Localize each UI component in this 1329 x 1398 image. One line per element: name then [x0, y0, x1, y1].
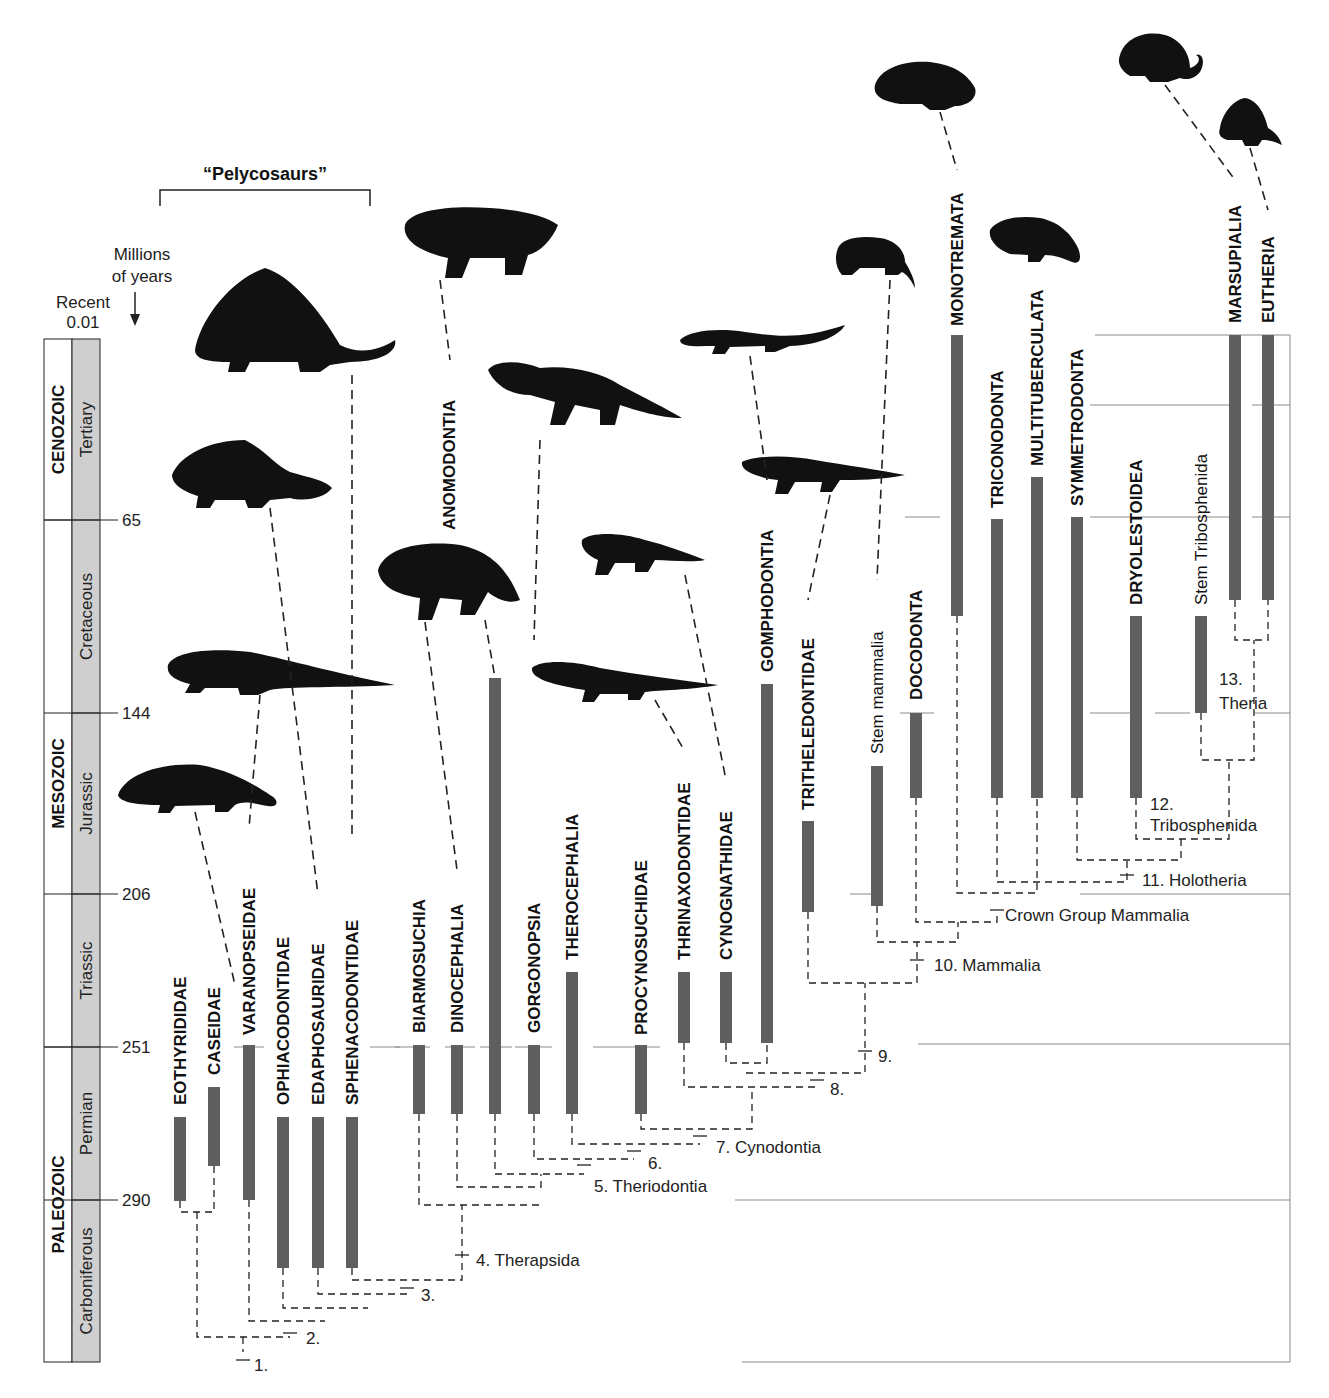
taxon-range-bar [566, 972, 578, 1114]
clade-node-label: 1. [254, 1356, 268, 1375]
taxon-label: CYNOGNATHIDAE [717, 811, 736, 960]
clade-node-label: 13. [1219, 670, 1243, 689]
taxon: CASEIDAE [205, 987, 224, 1166]
taxon-label: Stem mammalia [868, 631, 887, 754]
taxon-range-bar [1031, 477, 1043, 798]
taxon-range-bar [174, 1117, 186, 1201]
pelycosaurs-bracket: “Pelycosaurs” [160, 164, 370, 206]
scale-header-line2: of years [112, 267, 172, 286]
taxon-range-bar [1071, 517, 1083, 798]
taxon-label: THRINAXODONTIDAE [675, 782, 694, 960]
taxon-label: CASEIDAE [205, 987, 224, 1075]
clade-node-label: Tribosphenida [1150, 816, 1258, 835]
clade-node-label: 5. Theriodontia [594, 1177, 708, 1196]
clade-node-label: 6. [648, 1154, 662, 1173]
taxon-label: Stem Tribosphenida [1192, 453, 1211, 605]
node-labels: 1.2.3.4. Therapsida5. Theriodontia6.7. C… [254, 670, 1268, 1375]
clade-node-label: 4. Therapsida [476, 1251, 580, 1270]
clade-node-label: 7. Cynodontia [716, 1138, 821, 1157]
taxon: BIARMOSUCHIA [410, 899, 429, 1114]
taxon: MULTITUBERCULATA [1028, 289, 1047, 798]
taxon-label: BIARMOSUCHIA [410, 899, 429, 1033]
taxon-label: ANOMODONTIA [440, 400, 459, 530]
pelycosaurs-label: “Pelycosaurs” [203, 164, 327, 184]
clade-node-label: Crown Group Mammalia [1005, 906, 1190, 925]
dimetrodon-silhouette [195, 268, 395, 372]
down-arrow-icon [130, 292, 140, 326]
taxon-range-bar [678, 972, 690, 1043]
taxon: EDAPHOSAURIDAE [309, 943, 328, 1268]
taxon-range-bar [951, 335, 963, 616]
clade-node-label: 10. Mammalia [934, 956, 1041, 975]
taxon-range-bar [346, 1117, 358, 1268]
taxon: SPHENACODONTIDAE [343, 920, 362, 1268]
taxon-label: EUTHERIA [1259, 236, 1278, 323]
dinocephalian-silhouette [378, 544, 520, 620]
taxon: THEROCEPHALIA [563, 814, 582, 1114]
clade-node-label: Theria [1219, 694, 1268, 713]
silhouettes [118, 34, 1282, 813]
edaphosaurus-silhouette [172, 440, 332, 508]
taxon-label: MARSUPIALIA [1226, 205, 1245, 323]
taxon: TRITHELEDONTIDAE [799, 638, 818, 912]
taxon-range-bar [991, 519, 1003, 798]
clade-node-label: 11. Holotheria [1142, 871, 1247, 890]
taxon: GOMPHODONTIA [758, 529, 777, 1043]
taxon-range-bar [761, 684, 773, 1043]
time-tick-label: 251 [122, 1038, 150, 1057]
taxon: Stem mammalia [868, 631, 887, 906]
taxon: DINOCEPHALIA [448, 904, 467, 1114]
taxon: GORGONOPSIA [525, 903, 544, 1114]
clade-node-label: 9. [878, 1047, 892, 1066]
taxon: DOCODONTA [907, 590, 926, 798]
taxon-label: PROCYNOSUCHIDAE [632, 860, 651, 1035]
period-label: Tertiary [77, 401, 96, 457]
taxon-label: DINOCEPHALIA [448, 904, 467, 1033]
taxon-range-bar [208, 1087, 220, 1166]
taxon-label: THEROCEPHALIA [563, 814, 582, 960]
taxon: Stem Tribosphenida [1192, 453, 1211, 713]
taxon-range-bar [528, 1045, 540, 1114]
recent-value: 0.01 [66, 313, 99, 332]
taxon-range-bar [243, 1045, 255, 1200]
taxon: EOTHYRIDIDAE [171, 977, 190, 1201]
taxon: DRYOLESTOIDEA [1127, 460, 1146, 798]
taxon-label: DOCODONTA [907, 590, 926, 700]
time-tick-label: 144 [122, 704, 150, 723]
taxon-label: MONOTREMATA [948, 193, 967, 326]
echidna-silhouette [875, 62, 976, 110]
taxon-range-bar [277, 1117, 289, 1268]
period-label: Triassic [77, 941, 96, 999]
period-column [72, 339, 100, 1362]
shrew-silhouette [1219, 98, 1282, 146]
taxon-range-bar [635, 1045, 647, 1114]
era-label: MESOZOIC [49, 738, 68, 829]
taxon: OPHIACODONTIDAE [274, 937, 293, 1268]
recent-label: Recent [56, 293, 110, 312]
cynodont-silhouette [582, 534, 705, 575]
gomphodont-silhouette [680, 325, 845, 354]
period-label: Jurassic [77, 772, 96, 835]
taxon-range-bar [1262, 335, 1274, 600]
clade-node-label: 3. [421, 1286, 435, 1305]
taxon-range-bar [720, 972, 732, 1043]
taxon-range-bar [489, 678, 501, 1114]
era-label: CENOZOIC [49, 385, 68, 475]
taxon: THRINAXODONTIDAE [675, 782, 694, 1043]
taxon: SYMMETRODONTA [1068, 349, 1087, 798]
taxon-range-bar [1195, 616, 1207, 713]
taxon-range-bar [312, 1117, 324, 1268]
taxon-label: SPHENACODONTIDAE [343, 920, 362, 1105]
taxon: PROCYNOSUCHIDAE [632, 860, 651, 1114]
taxon-label: MULTITUBERCULATA [1028, 289, 1047, 466]
clade-node-label: 2. [306, 1329, 320, 1348]
taxon-range-bar [413, 1045, 425, 1114]
taxon-label: GOMPHODONTIA [758, 529, 777, 672]
taxon-label: DRYOLESTOIDEA [1127, 460, 1146, 605]
time-tick-label: 290 [122, 1191, 150, 1210]
taxon: MARSUPIALIA [1226, 205, 1245, 600]
taxon-range-bar [1229, 335, 1241, 600]
ophiacodon-silhouette [168, 650, 395, 695]
period-label: Permian [77, 1092, 96, 1155]
taxon: VARANOPSEIDAE [240, 888, 259, 1200]
